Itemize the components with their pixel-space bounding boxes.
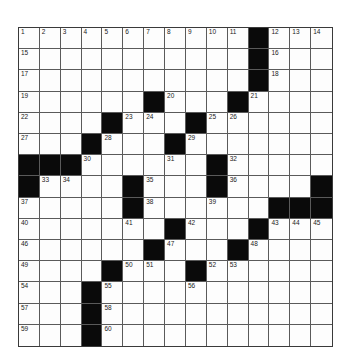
- grid-cell[interactable]: [186, 198, 207, 219]
- grid-cell[interactable]: [311, 70, 332, 91]
- grid-cell[interactable]: [40, 70, 61, 91]
- grid-cell[interactable]: 46: [19, 240, 40, 261]
- grid-cell[interactable]: [269, 261, 290, 282]
- grid-cell[interactable]: 4: [82, 28, 103, 49]
- grid-cell[interactable]: [82, 176, 103, 197]
- grid-cell[interactable]: [61, 134, 82, 155]
- grid-cell[interactable]: [40, 261, 61, 282]
- grid-cell[interactable]: 50: [123, 261, 144, 282]
- grid-cell[interactable]: [186, 176, 207, 197]
- grid-cell[interactable]: [123, 92, 144, 113]
- grid-cell[interactable]: 21: [249, 92, 270, 113]
- grid-cell[interactable]: [82, 261, 103, 282]
- grid-cell[interactable]: [228, 198, 249, 219]
- grid-cell[interactable]: [290, 261, 311, 282]
- grid-cell[interactable]: [269, 113, 290, 134]
- grid-cell[interactable]: [290, 240, 311, 261]
- grid-cell[interactable]: 33: [40, 176, 61, 197]
- grid-cell[interactable]: 40: [19, 219, 40, 240]
- grid-cell[interactable]: [82, 113, 103, 134]
- grid-cell[interactable]: 58: [102, 304, 123, 325]
- grid-cell[interactable]: [186, 325, 207, 346]
- grid-cell[interactable]: 60: [102, 325, 123, 346]
- grid-cell[interactable]: [249, 282, 270, 303]
- grid-cell[interactable]: [165, 176, 186, 197]
- grid-cell[interactable]: [290, 70, 311, 91]
- grid-cell[interactable]: [186, 49, 207, 70]
- grid-cell[interactable]: [228, 282, 249, 303]
- grid-cell[interactable]: [186, 304, 207, 325]
- grid-cell[interactable]: [123, 70, 144, 91]
- grid-cell[interactable]: [249, 113, 270, 134]
- grid-cell[interactable]: 34: [61, 176, 82, 197]
- grid-cell[interactable]: [228, 325, 249, 346]
- grid-cell[interactable]: 15: [19, 49, 40, 70]
- grid-cell[interactable]: [290, 155, 311, 176]
- grid-cell[interactable]: [311, 134, 332, 155]
- grid-cell[interactable]: [228, 49, 249, 70]
- grid-cell[interactable]: [290, 304, 311, 325]
- grid-cell[interactable]: [40, 240, 61, 261]
- grid-cell[interactable]: [144, 155, 165, 176]
- grid-cell[interactable]: 12: [269, 28, 290, 49]
- grid-cell[interactable]: [207, 325, 228, 346]
- grid-cell[interactable]: 48: [249, 240, 270, 261]
- grid-cell[interactable]: [290, 49, 311, 70]
- grid-cell[interactable]: 29: [186, 134, 207, 155]
- grid-cell[interactable]: [40, 49, 61, 70]
- grid-cell[interactable]: [186, 70, 207, 91]
- grid-cell[interactable]: [165, 261, 186, 282]
- grid-cell[interactable]: [207, 49, 228, 70]
- grid-cell[interactable]: [311, 92, 332, 113]
- grid-cell[interactable]: [102, 92, 123, 113]
- grid-cell[interactable]: [207, 240, 228, 261]
- grid-cell[interactable]: [61, 282, 82, 303]
- grid-cell[interactable]: 2: [40, 28, 61, 49]
- grid-cell[interactable]: [228, 70, 249, 91]
- grid-cell[interactable]: 57: [19, 304, 40, 325]
- grid-cell[interactable]: [228, 304, 249, 325]
- grid-cell[interactable]: [249, 155, 270, 176]
- grid-cell[interactable]: 27: [19, 134, 40, 155]
- grid-cell[interactable]: [311, 325, 332, 346]
- grid-cell[interactable]: [40, 219, 61, 240]
- grid-cell[interactable]: [269, 282, 290, 303]
- grid-cell[interactable]: 35: [144, 176, 165, 197]
- grid-cell[interactable]: [40, 113, 61, 134]
- grid-cell[interactable]: [82, 240, 103, 261]
- grid-cell[interactable]: [269, 304, 290, 325]
- grid-cell[interactable]: [40, 325, 61, 346]
- grid-cell[interactable]: [144, 325, 165, 346]
- grid-cell[interactable]: [228, 219, 249, 240]
- grid-cell[interactable]: [207, 219, 228, 240]
- grid-cell[interactable]: [165, 325, 186, 346]
- grid-cell[interactable]: [102, 176, 123, 197]
- grid-cell[interactable]: [249, 304, 270, 325]
- grid-cell[interactable]: [61, 49, 82, 70]
- grid-cell[interactable]: [61, 113, 82, 134]
- grid-cell[interactable]: [144, 304, 165, 325]
- grid-cell[interactable]: [311, 113, 332, 134]
- grid-cell[interactable]: [102, 155, 123, 176]
- grid-cell[interactable]: [102, 219, 123, 240]
- grid-cell[interactable]: [40, 304, 61, 325]
- grid-cell[interactable]: [290, 282, 311, 303]
- grid-cell[interactable]: [249, 325, 270, 346]
- grid-cell[interactable]: 9: [186, 28, 207, 49]
- grid-cell[interactable]: 45: [311, 219, 332, 240]
- grid-cell[interactable]: [207, 92, 228, 113]
- grid-cell[interactable]: [186, 240, 207, 261]
- grid-cell[interactable]: [290, 113, 311, 134]
- grid-cell[interactable]: [102, 70, 123, 91]
- grid-cell[interactable]: 5: [102, 28, 123, 49]
- grid-cell[interactable]: 43: [269, 219, 290, 240]
- grid-cell[interactable]: [249, 134, 270, 155]
- grid-cell[interactable]: [61, 198, 82, 219]
- grid-cell[interactable]: [123, 282, 144, 303]
- grid-cell[interactable]: [144, 219, 165, 240]
- grid-cell[interactable]: 38: [144, 198, 165, 219]
- grid-cell[interactable]: [207, 304, 228, 325]
- grid-cell[interactable]: [165, 304, 186, 325]
- grid-cell[interactable]: [269, 134, 290, 155]
- grid-cell[interactable]: 13: [290, 28, 311, 49]
